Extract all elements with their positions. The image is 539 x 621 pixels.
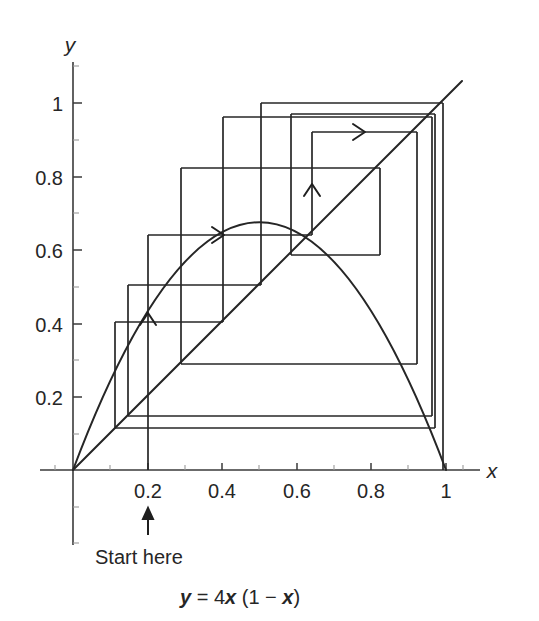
y-axis-label: y xyxy=(63,33,77,56)
x-tick-label-1: 1 xyxy=(440,480,451,502)
y-tick-label-1: 1 xyxy=(52,93,63,115)
x-tick-label-0.8: 0.8 xyxy=(357,480,385,502)
y-tick-labels: 1 0.8 0.6 0.4 0.2 xyxy=(35,93,63,409)
equation-var2: x xyxy=(281,586,294,608)
x-tick-label-0.4: 0.4 xyxy=(208,480,236,502)
equation-eq: = 4 xyxy=(191,586,225,608)
x-tick-label-0.6: 0.6 xyxy=(283,480,311,502)
direction-arrows xyxy=(140,124,365,325)
y-tick-label-0.8: 0.8 xyxy=(35,167,63,189)
x-tick-labels: 0.2 0.4 0.6 0.8 1 xyxy=(134,480,451,502)
start-here-label: Start here xyxy=(95,546,183,568)
cobweb-figure: 1 0.8 0.6 0.4 0.2 0.2 0.4 0.6 0.8 1 y x xyxy=(0,0,539,621)
equation-close: ) xyxy=(293,586,300,608)
equation-open: (1 − xyxy=(236,586,282,608)
x-axis-label: x xyxy=(486,459,499,482)
axes-group xyxy=(40,62,480,545)
y-tick-label-0.4: 0.4 xyxy=(35,314,63,336)
equation-caption: y = 4x (1 − x) xyxy=(179,586,300,608)
equation-var1: x xyxy=(224,586,237,608)
identity-diagonal-line xyxy=(73,81,462,470)
x-tick-label-0.2: 0.2 xyxy=(134,480,162,502)
equation-lhs: y xyxy=(179,586,192,608)
start-here-annotation: Start here xyxy=(95,508,183,568)
y-tick-label-0.2: 0.2 xyxy=(35,387,63,409)
logistic-parabola-curve xyxy=(73,222,446,470)
start-pointer-head xyxy=(143,508,153,519)
cobweb-plot-svg: 1 0.8 0.6 0.4 0.2 0.2 0.4 0.6 0.8 1 y x xyxy=(0,0,539,621)
y-tick-label-0.6: 0.6 xyxy=(35,240,63,262)
